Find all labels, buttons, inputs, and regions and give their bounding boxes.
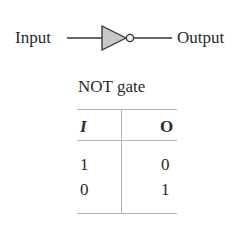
not-gate-icon — [64, 22, 176, 56]
table-column-divider — [121, 109, 122, 213]
table-cell: 0 — [80, 180, 89, 200]
output-label: Output — [177, 28, 224, 48]
input-label: Input — [15, 28, 51, 48]
table-header-rule — [77, 140, 177, 141]
header-input: I — [80, 117, 87, 137]
table-bottom-rule — [77, 213, 177, 214]
header-output: O — [160, 117, 173, 137]
table-title: NOT gate — [78, 77, 145, 97]
table-top-rule — [77, 109, 177, 110]
table-cell: 0 — [161, 155, 170, 175]
table-cell: 1 — [80, 155, 89, 175]
table-cell: 1 — [161, 180, 170, 200]
